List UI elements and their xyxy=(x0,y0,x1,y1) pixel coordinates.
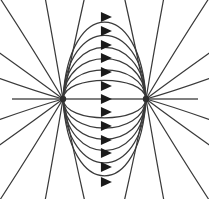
escape-line xyxy=(146,0,208,99)
dipole-field-diagram xyxy=(0,0,209,199)
escape-line xyxy=(0,99,63,145)
arrow-right-icon xyxy=(101,81,112,91)
escape-line xyxy=(1,0,63,99)
escape-line xyxy=(0,79,63,99)
field-direction-arrows xyxy=(101,12,112,187)
arrow-right-icon xyxy=(101,26,112,36)
arrow-right-icon xyxy=(101,12,112,22)
escape-line xyxy=(0,53,63,99)
escape-line xyxy=(146,99,209,119)
arrow-right-icon xyxy=(101,53,112,63)
escape-line xyxy=(146,99,209,145)
dipole-figure xyxy=(0,0,209,199)
arrow-right-icon xyxy=(101,67,112,77)
escape-line xyxy=(0,99,63,119)
escape-line xyxy=(146,53,209,99)
arrow-right-icon xyxy=(101,162,112,172)
source-charge-marker xyxy=(60,96,66,102)
escape-line xyxy=(146,79,209,99)
field-arc xyxy=(63,59,146,99)
arrow-right-icon xyxy=(101,107,112,117)
arrow-right-icon xyxy=(101,135,112,145)
escape-line xyxy=(1,99,63,199)
arrow-right-icon xyxy=(101,177,112,187)
escape-line xyxy=(146,99,208,199)
field-arc xyxy=(63,99,146,139)
arrow-right-icon xyxy=(101,94,112,104)
arrow-right-icon xyxy=(101,121,112,131)
sink-charge-marker xyxy=(143,96,149,102)
